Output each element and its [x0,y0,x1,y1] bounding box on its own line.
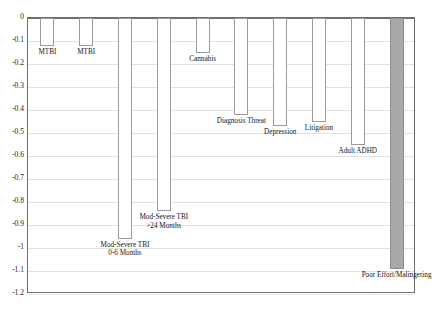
bar-label: Mod-Severe TBI>24 Months [139,213,188,230]
bar-label: Diagnosis Threat [217,117,266,125]
bar[interactable] [196,18,210,53]
y-tick-label: -0.7 [0,174,24,182]
y-tick-label: -0.6 [0,151,24,159]
bar-label-line-2: 0-6 Months [101,249,150,257]
y-tick-label: -0.5 [0,128,24,136]
bar-label-line-1: MTBI [77,48,95,56]
bar-label: Adult ADHD [339,147,378,155]
gridline [28,294,414,295]
bar-label: MTBI [77,48,95,56]
bar-label: MTBI [38,48,56,56]
bar-label-line-1: Depression [264,128,296,136]
bar[interactable] [312,18,326,122]
bar-label-line-1: Poor Effort/Malingering [362,271,432,279]
bar-label-line-1: Diagnosis Threat [217,117,266,125]
bar[interactable] [390,18,404,269]
bar[interactable] [351,18,365,145]
bar-label-line-1: Mod-Severe TBI [101,241,150,249]
gridline [28,156,414,157]
bar-label: Cannabis [189,55,216,63]
y-tick-label: -1.1 [0,266,24,274]
bar-label-line-1: MTBI [38,48,56,56]
bar-label-line-1: Mod-Severe TBI [139,213,188,221]
y-tick-label: -0.2 [0,59,24,67]
gridline [28,225,414,226]
gridline [28,202,414,203]
bar-label: Mod-Severe TBI0-6 Months [101,241,150,258]
bar-label-line-1: Litigation [305,124,333,132]
y-tick-label: -0.3 [0,82,24,90]
gridline [28,271,414,272]
bar-label-line-1: Adult ADHD [339,147,378,155]
bar[interactable] [79,18,93,46]
y-tick-label: 0 [0,13,24,21]
y-axis-tick-labels: 0-0.1-0.2-0.3-0.4-0.5-0.6-0.7-0.8-0.9-1-… [0,17,24,293]
bar-label-line-1: Cannabis [189,55,216,63]
bar[interactable] [157,18,171,211]
bar[interactable] [118,18,132,239]
bar-label: Depression [264,128,296,136]
y-tick-label: -1 [0,243,24,251]
effect-size-bar-chart: 0-0.1-0.2-0.3-0.4-0.5-0.6-0.7-0.8-0.9-1-… [0,0,435,314]
gridline [28,248,414,249]
bar-label: Litigation [305,124,333,132]
bar-label-line-2: >24 Months [139,222,188,230]
y-tick-label: -0.1 [0,36,24,44]
bar[interactable] [273,18,287,126]
gridline [28,179,414,180]
plot-area: MTBIMTBIMod-Severe TBI0-6 MonthsMod-Seve… [27,17,415,293]
y-tick-label: -0.8 [0,197,24,205]
y-tick-label: -1.2 [0,289,24,297]
bar-label: Poor Effort/Malingering [362,271,432,279]
bar[interactable] [234,18,248,115]
bar[interactable] [40,18,54,46]
y-tick-label: -0.9 [0,220,24,228]
y-tick-label: -0.4 [0,105,24,113]
